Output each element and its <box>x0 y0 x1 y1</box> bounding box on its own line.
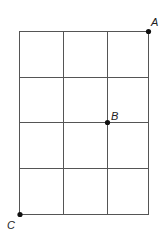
point-c-dot <box>17 212 22 217</box>
point-b-label: B <box>111 110 118 122</box>
grid-lines <box>19 31 149 215</box>
point-a-label: A <box>150 16 158 28</box>
point-c-label: C <box>7 219 15 231</box>
point-b-dot <box>105 120 110 125</box>
grid-diagram: A B C <box>0 0 163 238</box>
point-a-dot <box>146 29 151 34</box>
